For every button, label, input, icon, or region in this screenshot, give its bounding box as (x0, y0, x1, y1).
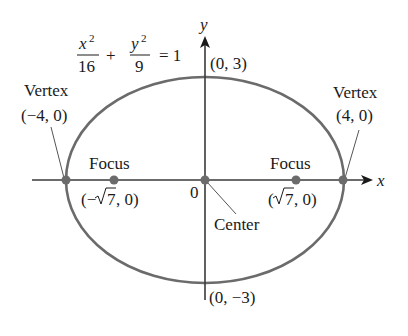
right-focus-coord-radicand: 7 (285, 190, 294, 209)
eq-term2-denominator: 9 (135, 57, 144, 76)
eq-term1-denominator: 16 (78, 57, 95, 76)
bottom-point-label: (0, −3) (209, 288, 255, 307)
eq-plus: + (106, 46, 116, 65)
right-vertex-point (339, 176, 348, 185)
left-vertex-leader (51, 127, 64, 178)
origin-label: 0 (190, 183, 199, 202)
ellipse-equation: x 2 16 + y 2 9 = 1 (77, 32, 181, 76)
right-focus-coord: ( 7 , 0) (268, 188, 317, 209)
left-vertex-title: Vertex (24, 81, 69, 100)
right-focus-point (292, 176, 301, 185)
y-axis-label: y (198, 15, 208, 34)
left-focus-coord-prefix: (− (81, 190, 96, 209)
right-vertex-coord: (4, 0) (336, 106, 373, 125)
right-vertex-title: Vertex (333, 83, 378, 102)
left-vertex-coord: (−4, 0) (21, 106, 67, 125)
right-vertex-leader (345, 130, 359, 178)
left-focus-coord-suffix: , 0) (116, 190, 139, 209)
right-focus-coord-prefix: ( (268, 190, 274, 209)
eq-term2-numerator: y (129, 34, 139, 53)
left-vertex-point (62, 176, 71, 185)
left-focus-coord: (− 7 , 0) (81, 188, 139, 209)
center-leader (207, 182, 236, 214)
center-point (201, 176, 210, 185)
left-focus-coord-radicand: 7 (107, 190, 116, 209)
right-focus-title: Focus (270, 154, 311, 173)
eq-equals-one: = 1 (159, 46, 181, 65)
top-point-label: (0, 3) (210, 54, 247, 73)
left-focus-title: Focus (89, 154, 130, 173)
center-label: Center (214, 215, 260, 234)
left-focus-point (110, 176, 119, 185)
eq-term1-exponent: 2 (89, 32, 95, 44)
eq-term2-exponent: 2 (141, 32, 147, 44)
ellipse-diagram: x y x 2 16 + y 2 9 = 1 (0, 3) (0, −3) Ve… (0, 0, 408, 336)
eq-term1-numerator: x (78, 34, 87, 53)
x-axis-label: x (376, 171, 385, 190)
right-focus-coord-suffix: , 0) (294, 190, 317, 209)
